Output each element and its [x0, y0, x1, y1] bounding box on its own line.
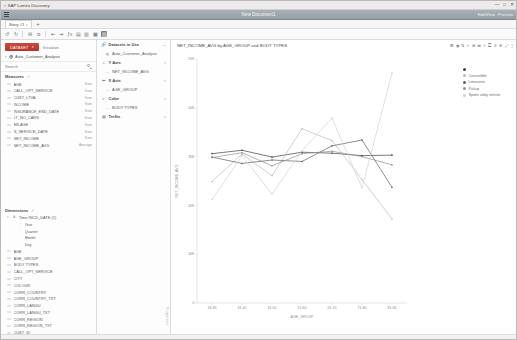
dimension-row[interactable]: ▫Year: [1, 221, 96, 228]
more-icon[interactable]: ⋮: [510, 43, 514, 48]
dimension-row[interactable]: ▭CORR_REGION: [1, 316, 96, 323]
measure-row[interactable]: ▭LT_NO_CARSSum: [1, 115, 96, 122]
measure-row[interactable]: ▭MILAGESum: [1, 121, 96, 128]
chart-line-series-2[interactable]: [212, 140, 392, 187]
search-row[interactable]: [1, 62, 96, 72]
calculation-icon[interactable]: ⊞: [472, 43, 475, 48]
search-input[interactable]: [5, 64, 87, 69]
chevron-down-icon[interactable]: ▾: [164, 115, 166, 119]
chart-data-point[interactable]: [361, 187, 363, 189]
check-icon[interactable]: ✓: [27, 74, 30, 79]
chevron-down-icon[interactable]: ▾: [5, 55, 7, 59]
legend-item[interactable]: [463, 68, 513, 71]
chevron-down-icon[interactable]: ▾: [7, 215, 10, 219]
legend-item[interactable]: Limousine: [463, 80, 513, 84]
line-chart[interactable]: 010K20K30K40K50KNET_INCOME_AVG18-3031-40…: [171, 53, 421, 333]
dataset-button[interactable]: DATASET ▾: [5, 43, 39, 51]
expand-icon[interactable]: ⤢: [505, 43, 508, 48]
legend-item[interactable]: Pickup: [463, 87, 513, 91]
chart-data-point[interactable]: [301, 153, 303, 155]
dimension-row[interactable]: ▭CALL_OPT_SERVICE: [1, 268, 96, 275]
close-button[interactable]: ✕: [510, 2, 514, 8]
chevron-left-icon[interactable]: ‹: [4, 2, 6, 8]
chevron-down-icon[interactable]: ▾: [164, 79, 166, 83]
chart-data-point[interactable]: [211, 181, 213, 183]
chart-data-point[interactable]: [331, 145, 333, 147]
redo-icon[interactable]: ↻: [13, 31, 19, 37]
chart-line-series-4[interactable]: [212, 73, 392, 199]
chart-data-point[interactable]: [331, 152, 333, 154]
search-icon[interactable]: [87, 64, 92, 69]
chart-data-point[interactable]: [211, 199, 213, 201]
datasets-in-use-header[interactable]: 🔗 Datasets in Use ⋯: [97, 40, 170, 50]
undo-icon[interactable]: ↺: [4, 31, 10, 37]
bar-chart-icon[interactable]: ▤: [75, 31, 81, 37]
chevron-down-icon[interactable]: ▾: [164, 97, 166, 101]
dimension-row[interactable]: ▫Day: [1, 241, 96, 248]
measure-row[interactable]: ▭N_SERVICE_DATESum: [1, 128, 96, 135]
shelf-item[interactable]: ▭BODY TYPES: [97, 104, 170, 112]
shelf-header-x-axis[interactable]: ⊢X Axis▾: [97, 76, 170, 86]
add-tab-button[interactable]: +: [36, 21, 40, 27]
settings-icon[interactable]: ✲: [499, 43, 502, 48]
chart-data-point[interactable]: [331, 150, 333, 152]
legend-item[interactable]: Convertible: [463, 74, 513, 78]
chart-data-point[interactable]: [361, 179, 363, 181]
drill-icon[interactable]: ≪: [477, 43, 481, 48]
dimension-row[interactable]: ▭AGE: [1, 248, 96, 255]
shelf-header-trellis[interactable]: ▦Trellis▾: [97, 112, 170, 122]
column-chart-icon[interactable]: ▥: [84, 31, 90, 37]
chart-data-point[interactable]: [301, 150, 303, 152]
chart-data-point[interactable]: [271, 159, 273, 161]
chart-data-point[interactable]: [301, 161, 303, 163]
dimensions-header[interactable]: Dimensions ✓: [1, 206, 96, 215]
measure-row[interactable]: ▭AGESum: [1, 81, 96, 88]
conditional-format-icon[interactable]: ⊏: [488, 43, 491, 48]
chart-data-point[interactable]: [241, 152, 243, 154]
chart-data-point[interactable]: [331, 117, 333, 119]
measure-row[interactable]: ▭CALL_OPT_SERVICESum: [1, 87, 96, 94]
chart-data-point[interactable]: [271, 156, 273, 158]
chevron-down-icon[interactable]: ▾: [26, 23, 28, 27]
chart-data-point[interactable]: [391, 187, 393, 189]
dimension-row[interactable]: ▭CORR_COUNTRY: [1, 289, 96, 296]
ranking-icon[interactable]: ◉: [456, 43, 459, 48]
chevron-down-icon[interactable]: ▾: [164, 61, 166, 65]
sort-icon[interactable]: ⇅: [461, 43, 464, 48]
measure-row[interactable]: ▭INCOMESum: [1, 101, 96, 108]
chart-data-point[interactable]: [391, 72, 393, 74]
align-left-icon[interactable]: ⇤: [50, 31, 56, 37]
chart-line-series-1[interactable]: [212, 129, 392, 219]
properties-side-label[interactable]: Properties: [165, 307, 169, 325]
dimension-row[interactable]: ▾⧗Time.INCD_DATE (1): [1, 214, 96, 221]
measure-row[interactable]: ▭NET_INCOME_AVGAverage: [1, 142, 96, 149]
dimension-row[interactable]: ▭CORR_COUNTRY_TXT: [1, 295, 96, 302]
dimension-row[interactable]: ▭BODY TYPES: [1, 262, 96, 269]
copy-icon[interactable]: ⧉: [35, 31, 41, 37]
shelf-header-y-axis[interactable]: ⊥Y Axis▾: [97, 58, 170, 68]
chart-data-point[interactable]: [241, 149, 243, 151]
chart-data-point[interactable]: [211, 153, 213, 155]
dimension-row[interactable]: ▭CITY: [1, 275, 96, 282]
shelf-header-color[interactable]: ◐Color▾: [97, 94, 170, 104]
chart-data-point[interactable]: [331, 140, 333, 142]
legend-item[interactable]: Sports utility vehicle: [463, 93, 513, 97]
chart-data-point[interactable]: [391, 164, 393, 166]
area-chart-icon[interactable]: ▩: [93, 31, 99, 37]
align-right-icon[interactable]: ⇥: [58, 31, 64, 37]
minus-icon[interactable]: ⊟: [27, 31, 33, 37]
measure-row[interactable]: ▭NET_INCOMESum: [1, 135, 96, 142]
measure-row[interactable]: ▭CUST_LTVASum: [1, 94, 96, 101]
more-icon[interactable]: ⋯: [163, 43, 166, 47]
dimension-row[interactable]: ▫Quarter: [1, 228, 96, 235]
measure-row[interactable]: ▭INSURANCE_END_DATESum: [1, 108, 96, 115]
chart-data-point[interactable]: [391, 154, 393, 156]
chart-data-point[interactable]: [301, 128, 303, 130]
measures-header[interactable]: Measures ✓: [1, 72, 96, 81]
dimension-row[interactable]: ▫Month: [1, 234, 96, 241]
chart-data-point[interactable]: [211, 157, 213, 159]
dimension-row[interactable]: ▭CORR_LANGU: [1, 302, 96, 309]
chart-data-point[interactable]: [241, 153, 243, 155]
function-icon[interactable]: ƒx: [67, 31, 73, 37]
line-chart-icon[interactable]: ▨: [101, 31, 107, 37]
